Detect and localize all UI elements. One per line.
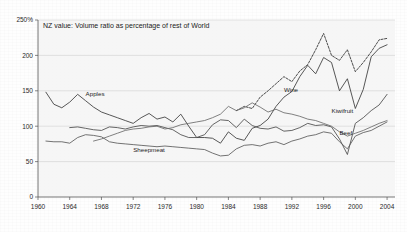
x-tick-label: 1968 — [94, 203, 109, 210]
chart-root: 050100150200250%196019641968197219761980… — [0, 0, 407, 232]
series-label-sheepmeat: Sheepmeat — [133, 146, 165, 153]
y-tick-label: 0 — [29, 193, 33, 200]
y-tick-label: 50 — [26, 158, 34, 165]
series-line-wine — [236, 33, 387, 110]
x-tick-label: 1980 — [189, 203, 204, 210]
y-tick-label: 200 — [22, 52, 33, 59]
series-label-apples: Apples — [86, 90, 105, 97]
series-line-beef — [46, 122, 387, 156]
x-tick-label: 2004 — [380, 203, 395, 210]
x-tick-label: 1972 — [126, 203, 141, 210]
series-label-kiwifruit: Kiwifruit — [332, 107, 354, 114]
x-tick-label: 1984 — [221, 203, 236, 210]
series-line-kiwifruit — [70, 94, 387, 154]
y-tick-label: 250% — [16, 16, 33, 23]
y-tick-label: 150 — [22, 87, 33, 94]
x-tick-label: 1992 — [285, 203, 300, 210]
x-tick-label: 1964 — [62, 203, 77, 210]
x-tick-label: 1976 — [158, 203, 173, 210]
series-label-wine: Wine — [284, 86, 299, 93]
chart-title: NZ value: Volume ratio as percentage of … — [43, 22, 210, 30]
x-tick-label: 1996 — [316, 203, 331, 210]
x-tick-label: 1960 — [31, 203, 46, 210]
x-tick-label: 2000 — [348, 203, 363, 210]
line-chart: 050100150200250%196019641968197219761980… — [0, 0, 407, 232]
x-tick-label: 1988 — [253, 203, 268, 210]
y-tick-label: 100 — [22, 123, 33, 130]
series-label-beef: Beef — [339, 129, 352, 136]
